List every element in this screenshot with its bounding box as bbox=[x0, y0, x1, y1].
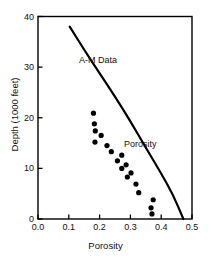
data-point bbox=[91, 111, 96, 116]
data-point bbox=[123, 162, 128, 167]
data-point bbox=[92, 139, 97, 144]
curve-label-porosity: Porosity bbox=[124, 140, 157, 149]
data-point bbox=[119, 153, 124, 158]
data-point bbox=[93, 128, 98, 133]
am-data-points bbox=[91, 111, 156, 217]
data-point bbox=[136, 190, 141, 195]
data-point bbox=[104, 143, 109, 148]
x-tick-label: 0.1 bbox=[63, 223, 76, 232]
data-point bbox=[92, 121, 97, 126]
data-point bbox=[125, 174, 130, 179]
chart-figure: 0.00.10.20.30.40.5 010203040 Porosity De… bbox=[0, 0, 211, 268]
data-point bbox=[115, 158, 120, 163]
x-tick-label: 0.4 bbox=[155, 223, 168, 232]
x-axis-title: Porosity bbox=[0, 240, 211, 251]
data-point bbox=[149, 211, 154, 216]
data-point bbox=[109, 149, 114, 154]
data-point bbox=[133, 181, 138, 186]
data-point bbox=[148, 205, 153, 210]
data-point bbox=[119, 166, 124, 171]
x-tick-label: 0.3 bbox=[124, 223, 137, 232]
series-label-am-data: A-M Data bbox=[79, 56, 117, 65]
x-tick-label: 0.2 bbox=[93, 223, 106, 232]
y-tick-label: 0 bbox=[14, 215, 34, 224]
x-tick-label: 0.0 bbox=[32, 223, 45, 232]
x-tick-label: 0.5 bbox=[186, 223, 199, 232]
data-point bbox=[99, 133, 104, 138]
data-point bbox=[128, 170, 133, 175]
y-axis-title: Depth (1000 feet) bbox=[9, 60, 20, 170]
data-point bbox=[151, 197, 156, 202]
y-tick-label: 40 bbox=[14, 12, 34, 21]
